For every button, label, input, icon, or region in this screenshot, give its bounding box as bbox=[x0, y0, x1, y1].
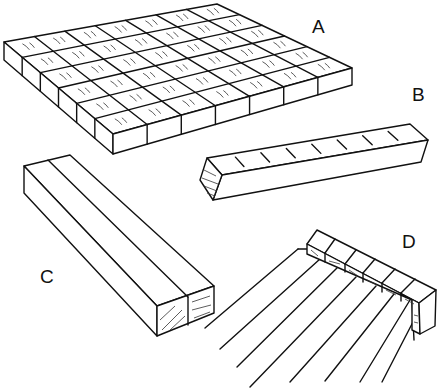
label-c: C bbox=[40, 266, 54, 287]
panel-a-grid-slab bbox=[4, 4, 352, 154]
panel-b-stick bbox=[200, 124, 428, 200]
panel-c-double-stick bbox=[24, 155, 214, 336]
wood-blocks-diagram: A B C D bbox=[0, 0, 442, 392]
label-d: D bbox=[402, 231, 416, 252]
panel-d-strip bbox=[205, 230, 436, 387]
label-a: A bbox=[312, 16, 325, 37]
label-b: B bbox=[412, 84, 425, 105]
